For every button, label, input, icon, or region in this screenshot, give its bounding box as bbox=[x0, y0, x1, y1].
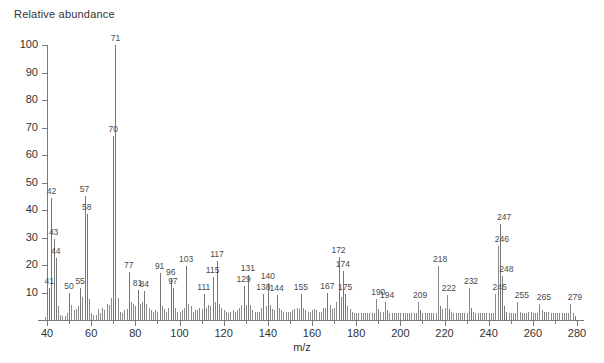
peak-bar bbox=[89, 299, 90, 320]
x-tick bbox=[489, 321, 490, 326]
x-tick bbox=[268, 321, 269, 326]
peak-bar bbox=[241, 305, 242, 320]
peak-bar bbox=[65, 316, 66, 320]
peak-bar bbox=[118, 298, 119, 320]
peak-bar bbox=[542, 310, 543, 320]
peak-bar bbox=[513, 313, 514, 320]
peak-bar bbox=[74, 310, 75, 320]
x-minor-tick bbox=[157, 321, 158, 324]
peak-bar bbox=[127, 309, 128, 320]
peak-bar bbox=[356, 313, 357, 320]
peak-bar bbox=[193, 312, 194, 320]
x-tick-label: 160 bbox=[295, 328, 329, 339]
x-minor-tick bbox=[246, 321, 247, 324]
peak-bar bbox=[442, 309, 443, 320]
peak-bar bbox=[235, 312, 236, 320]
peak-bar bbox=[564, 313, 565, 320]
peak-bar bbox=[460, 313, 461, 320]
peak-bar bbox=[252, 310, 253, 320]
peak-bar bbox=[305, 310, 306, 320]
peak-bar bbox=[372, 313, 373, 320]
peak-label: 194 bbox=[380, 291, 394, 300]
x-tick bbox=[577, 321, 578, 326]
peak-bar bbox=[124, 310, 125, 320]
peak-bar bbox=[548, 312, 549, 320]
peak-label: 42 bbox=[47, 187, 56, 196]
peak-label: 245 bbox=[493, 283, 507, 292]
peak-bar bbox=[570, 304, 571, 321]
peak-bar bbox=[47, 315, 48, 321]
x-tick-label: 200 bbox=[383, 328, 417, 339]
y-tick bbox=[42, 238, 47, 239]
peak-bar bbox=[162, 306, 163, 320]
peak-bar bbox=[308, 312, 309, 320]
peak-bar bbox=[186, 266, 187, 320]
peak-bar bbox=[414, 313, 415, 320]
peak-label: 255 bbox=[515, 291, 529, 300]
peak-bar bbox=[367, 313, 368, 320]
peak-bar bbox=[233, 310, 234, 320]
peak-bar bbox=[113, 136, 114, 320]
x-tick-label: 100 bbox=[163, 328, 197, 339]
x-tick-label: 40 bbox=[30, 328, 64, 339]
peak-bar bbox=[177, 312, 178, 320]
peak-bar bbox=[394, 313, 395, 320]
peak-bar bbox=[56, 258, 57, 320]
peak-bar bbox=[98, 309, 99, 320]
peak-bar bbox=[323, 308, 324, 320]
y-tick-label: 50 bbox=[12, 177, 38, 188]
peak-bar bbox=[551, 313, 552, 320]
peak-bar bbox=[546, 312, 547, 320]
peak-bar bbox=[520, 312, 521, 320]
x-tick-label: 280 bbox=[560, 328, 594, 339]
x-tick bbox=[180, 321, 181, 326]
peak-bar bbox=[383, 312, 384, 320]
x-tick-label: 80 bbox=[118, 328, 152, 339]
peak-bar bbox=[142, 302, 143, 320]
peak-label: 70 bbox=[109, 125, 118, 134]
peak-bar bbox=[431, 313, 432, 320]
peak-bar bbox=[327, 293, 328, 321]
x-tick-label: 240 bbox=[472, 328, 506, 339]
peak-bar bbox=[303, 308, 304, 320]
peak-bar bbox=[566, 313, 567, 320]
peak-bar bbox=[71, 305, 72, 320]
peak-label: 115 bbox=[206, 266, 220, 275]
peak-bar bbox=[202, 309, 203, 320]
peak-label: 265 bbox=[537, 293, 551, 302]
peak-bar bbox=[206, 308, 207, 320]
peak-bar bbox=[319, 312, 320, 320]
peak-bar bbox=[422, 313, 423, 320]
peak-bar bbox=[343, 271, 344, 321]
y-tick bbox=[42, 45, 47, 46]
peak-bar bbox=[480, 313, 481, 320]
peak-label: 140 bbox=[261, 272, 275, 281]
peak-bar bbox=[314, 309, 315, 320]
peak-bar bbox=[299, 309, 300, 320]
peak-bar bbox=[425, 313, 426, 320]
peak-bar bbox=[451, 312, 452, 320]
x-minor-tick bbox=[511, 321, 512, 324]
peak-bar bbox=[449, 309, 450, 320]
peak-bar bbox=[400, 313, 401, 320]
x-minor-tick bbox=[202, 321, 203, 324]
peak-bar bbox=[345, 294, 346, 320]
peak-label: 279 bbox=[568, 293, 582, 302]
peak-label: 44 bbox=[51, 247, 60, 256]
peak-label: 248 bbox=[499, 265, 513, 274]
peak-bar bbox=[544, 312, 545, 320]
peak-bar bbox=[369, 313, 370, 320]
peak-label: 209 bbox=[413, 291, 427, 300]
peak-bar bbox=[495, 294, 496, 320]
peak-bar bbox=[191, 306, 192, 320]
peak-bar bbox=[144, 291, 145, 320]
peak-bar bbox=[115, 45, 116, 320]
peak-bar bbox=[403, 313, 404, 320]
peak-bar bbox=[573, 313, 574, 320]
peak-bar bbox=[76, 309, 77, 320]
peak-bar bbox=[509, 313, 510, 320]
peak-bar bbox=[155, 310, 156, 320]
peak-bar bbox=[433, 313, 434, 320]
peak-bar bbox=[157, 312, 158, 320]
x-tick bbox=[135, 321, 136, 326]
